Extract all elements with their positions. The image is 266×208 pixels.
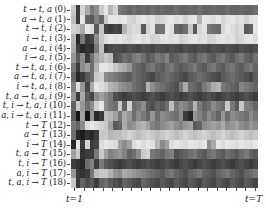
- x-tick: [84, 188, 85, 191]
- y-tick: [67, 58, 70, 59]
- heatmap-cell: [253, 178, 258, 188]
- x-tick: [74, 188, 75, 191]
- heatmap-row: [71, 82, 258, 92]
- heatmap-row: [71, 24, 258, 34]
- x-tick: [236, 188, 237, 191]
- heatmap-cell: [253, 72, 258, 82]
- y-tick: [67, 183, 70, 184]
- heatmap-cell: [253, 63, 258, 73]
- heatmap-row: [71, 72, 258, 82]
- x-tick: [103, 188, 104, 191]
- heatmap: [71, 5, 258, 188]
- x-tick: [179, 188, 180, 191]
- x-tick: [245, 188, 246, 191]
- heatmap-cell: [253, 159, 258, 169]
- y-tick: [67, 10, 70, 11]
- heatmap-cell: [253, 149, 258, 159]
- heatmap-cell: [253, 44, 258, 54]
- heatmap-cell: [253, 15, 258, 25]
- x-tick: [112, 188, 113, 191]
- heatmap-row: [71, 159, 258, 169]
- heatmap-row: [71, 63, 258, 73]
- y-tick: [67, 164, 70, 165]
- row-label: t, a, i → T (18): [8, 178, 66, 188]
- x-axis-end-label: t=T: [245, 194, 262, 204]
- heatmap-row: [71, 44, 258, 54]
- x-axis-ticks: [71, 188, 258, 192]
- x-tick: [141, 188, 142, 191]
- heatmap-row: [71, 34, 258, 44]
- heatmap-row: [71, 121, 258, 131]
- heatmap-row: [71, 92, 258, 102]
- x-tick: [150, 188, 151, 191]
- y-tick: [67, 106, 70, 107]
- y-tick: [67, 116, 70, 117]
- heatmap-row: [71, 111, 258, 121]
- x-tick: [226, 188, 227, 191]
- y-tick: [67, 125, 70, 126]
- x-tick: [207, 188, 208, 191]
- heatmap-row: [71, 178, 258, 188]
- x-tick: [198, 188, 199, 191]
- heatmap-cell: [253, 92, 258, 102]
- heatmap-row: [71, 149, 258, 159]
- x-tick: [160, 188, 161, 191]
- heatmap-row: [71, 140, 258, 150]
- heatmap-row: [71, 5, 258, 15]
- y-tick: [67, 154, 70, 155]
- x-tick: [122, 188, 123, 191]
- x-tick: [93, 188, 94, 191]
- x-tick: [255, 188, 256, 191]
- heatmap-cell: [253, 53, 258, 63]
- y-tick: [67, 48, 70, 49]
- x-tick: [188, 188, 189, 191]
- heatmap-cell: [253, 111, 258, 121]
- heatmap-row: [71, 101, 258, 111]
- heatmap-cell: [253, 121, 258, 131]
- y-tick: [67, 135, 70, 136]
- y-tick: [67, 68, 70, 69]
- y-tick: [67, 87, 70, 88]
- y-tick: [67, 29, 70, 30]
- heatmap-row: [71, 53, 258, 63]
- heatmap-row: [71, 169, 258, 179]
- heatmap-cell: [253, 24, 258, 34]
- heatmap-row: [71, 130, 258, 140]
- heatmap-cell: [253, 101, 258, 111]
- heatmap-cell: [253, 5, 258, 15]
- heatmap-row: [71, 15, 258, 25]
- heatmap-cell: [253, 34, 258, 44]
- heatmap-cell: [253, 169, 258, 179]
- y-tick: [67, 77, 70, 78]
- x-tick: [169, 188, 170, 191]
- y-tick: [67, 19, 70, 20]
- x-tick: [217, 188, 218, 191]
- x-axis-start-label: t=1: [66, 194, 83, 204]
- y-tick: [67, 145, 70, 146]
- y-tick: [67, 97, 70, 98]
- heatmap-cell: [253, 140, 258, 150]
- y-tick: [67, 39, 70, 40]
- x-tick: [131, 188, 132, 191]
- heatmap-cell: [253, 82, 258, 92]
- heatmap-cell: [253, 130, 258, 140]
- y-tick: [67, 174, 70, 175]
